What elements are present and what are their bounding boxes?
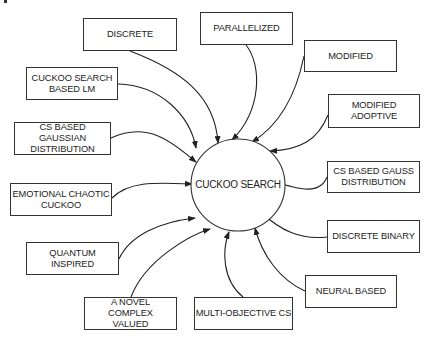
node-quantum-inspired: QUANTUM INSPIRED [26,242,119,275]
node-discrete-binary: DISCRETE BINARY [327,220,420,253]
edge-neural [255,228,305,291]
edge-cs-gaussian [111,132,196,162]
edge-novel-complex [131,229,210,297]
edge-multi-objective [225,232,243,297]
node-multi-objective: MULTI-OBJECTIVE CS [194,297,293,330]
node-modified: MODIFIED [304,40,397,72]
edge-emotional [112,183,192,198]
node-parallelized: PARALLELIZED [200,12,293,45]
edge-quantum [119,218,195,259]
cuckoo-search-diagram: CUCKOO SEARCH DISCRETE PARALLELIZED MODI… [0,0,433,344]
node-cs-gaussian: CS BASED GAUSSIAN DISTRIBUTION [14,122,111,155]
edge-cs-based-lm [118,84,196,148]
node-emotional-chaotic: EMOTIONAL CHAOTIC CUCKOO [10,183,112,216]
center-node-label: CUCKOO SEARCH [188,179,288,190]
node-discrete: DISCRETE [83,18,177,51]
node-modified-adoptive: MODIFIED ADOPTIVE [328,94,420,128]
edge-modified-adoptive [270,115,328,151]
edge-discrete [130,51,218,143]
node-cs-based-lm: CUCKOO SEARCH BASED LM [26,67,118,100]
node-cs-gauss: CS BASED GAUSS DISTRIBUTION [327,161,420,193]
edge-parallelized [232,45,257,140]
node-novel-complex: A NOVEL COMPLEX VALUED [84,297,177,330]
edge-modified [252,56,304,142]
node-neural-based: NEURAL BASED [305,275,397,308]
